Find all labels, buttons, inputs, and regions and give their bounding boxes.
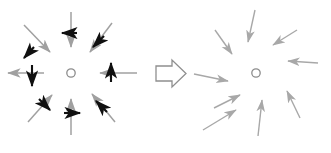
arrow-nw (24, 25, 50, 52)
left-vector-field-panel (0, 0, 150, 153)
left-gray-arrow-group (8, 12, 137, 135)
arrow-r6 (203, 110, 236, 130)
perturbation-ne (93, 36, 104, 47)
transition-panel (148, 0, 194, 153)
right-vector-field-panel (190, 0, 331, 153)
right-field-svg (190, 0, 331, 153)
arrow-r2 (273, 30, 297, 45)
perturbation-se (96, 101, 107, 112)
right-gray-arrow-group (194, 10, 318, 136)
arrow-r8 (194, 74, 228, 81)
arrow-ne (90, 23, 112, 52)
right-center-circle (252, 69, 260, 77)
arrow-r5 (258, 100, 262, 136)
left-field-svg (0, 0, 150, 153)
arrow-r3 (288, 61, 318, 63)
transition-arrow-icon (156, 60, 186, 87)
arrow-r7 (214, 95, 240, 108)
perturbation-nw (24, 47, 34, 58)
vector-field-figure (0, 0, 331, 153)
arrow-r1 (248, 10, 255, 42)
arrow-r9 (215, 30, 232, 54)
transition-svg (148, 0, 194, 153)
left-center-circle (67, 69, 75, 77)
arrow-r4 (287, 91, 300, 118)
